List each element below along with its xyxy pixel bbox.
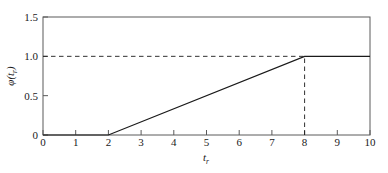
ytick-label-0: 0 (10, 130, 38, 141)
xtick-label-10: 10 (365, 137, 376, 148)
ytick-label-1-5: 1.5 (10, 12, 38, 23)
y-axis-label-sub: r (10, 70, 19, 73)
xtick-label-3: 3 (138, 137, 144, 148)
x-axis-label: tr (203, 152, 209, 166)
y-axis-label-close: ) (4, 66, 16, 70)
xtick-label-4: 4 (171, 137, 177, 148)
plot-frame (43, 17, 370, 135)
ytick-label-0-5: 0.5 (10, 90, 38, 101)
xtick-label-7: 7 (269, 137, 275, 148)
x-axis-label-sub: r (206, 157, 209, 166)
xtick-label-5: 5 (204, 137, 210, 148)
plot-area (0, 0, 388, 173)
y-axis-label-base: φ(t (4, 73, 16, 86)
ytick-label-1-0: 1.0 (10, 51, 38, 62)
xtick-label-8: 8 (302, 137, 308, 148)
xtick-label-9: 9 (335, 137, 341, 148)
xtick-label-0: 0 (40, 137, 46, 148)
xtick-label-1: 1 (73, 137, 79, 148)
y-axis-label: φ(tr) (5, 66, 19, 85)
xtick-label-6: 6 (236, 137, 242, 148)
chart-figure: 0 1 2 3 4 5 6 7 8 9 10 0 0.5 1.0 1.5 tr … (0, 0, 388, 173)
xtick-label-2: 2 (106, 137, 112, 148)
